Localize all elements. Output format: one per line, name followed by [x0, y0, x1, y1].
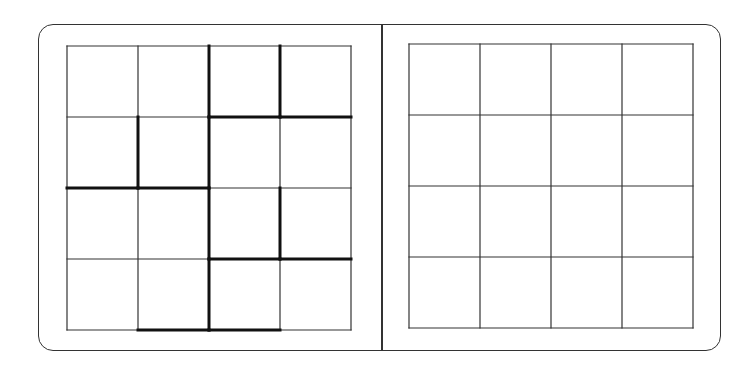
grid-cell-r2c0[interactable]: [67, 188, 138, 259]
boards-canvas: [0, 0, 756, 370]
grid-cell-r0c1[interactable]: [138, 46, 209, 117]
grid-cell-r0c1[interactable]: [480, 44, 551, 115]
grid-cell-r3c3[interactable]: [622, 257, 693, 328]
grid-cell-r2c3[interactable]: [622, 186, 693, 257]
answer-board-right: [409, 44, 693, 328]
grid-cell-r0c3[interactable]: [622, 44, 693, 115]
grid-cell-r0c3[interactable]: [280, 46, 351, 117]
grid-cell-r3c3[interactable]: [280, 259, 351, 330]
grid-cell-r1c2[interactable]: [209, 117, 280, 188]
grid-cell-r1c1[interactable]: [480, 115, 551, 186]
grid-cell-r0c0[interactable]: [67, 46, 138, 117]
grid-cell-r3c1[interactable]: [480, 257, 551, 328]
grid-cell-r1c0[interactable]: [67, 117, 138, 188]
grid-cell-r1c3[interactable]: [280, 117, 351, 188]
grid-cell-r3c0[interactable]: [67, 259, 138, 330]
grid-cell-r1c2[interactable]: [551, 115, 622, 186]
puzzle-board-left: [67, 46, 351, 330]
grid-cell-r1c3[interactable]: [622, 115, 693, 186]
grid-cell-r3c2[interactable]: [551, 257, 622, 328]
grid-cell-r2c2[interactable]: [551, 186, 622, 257]
grid-cell-r1c1[interactable]: [138, 117, 209, 188]
grid-cell-r3c1[interactable]: [138, 259, 209, 330]
grid-cell-r0c2[interactable]: [551, 44, 622, 115]
grid-cell-r1c0[interactable]: [409, 115, 480, 186]
grid-cell-r2c0[interactable]: [409, 186, 480, 257]
grid-cell-r2c1[interactable]: [480, 186, 551, 257]
grid-cell-r0c2[interactable]: [209, 46, 280, 117]
grid-cell-r2c2[interactable]: [209, 188, 280, 259]
grid-cell-r3c2[interactable]: [209, 259, 280, 330]
grid-cell-r3c0[interactable]: [409, 257, 480, 328]
grid-cell-r2c1[interactable]: [138, 188, 209, 259]
grid-cell-r2c3[interactable]: [280, 188, 351, 259]
grid-cell-r0c0[interactable]: [409, 44, 480, 115]
